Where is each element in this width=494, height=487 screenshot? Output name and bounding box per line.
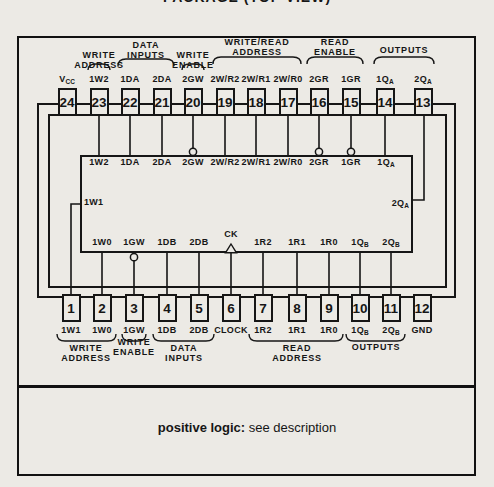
group-write-read-address-top: WRITE/READADDRESS [225,38,290,57]
pin-number: 1 [67,301,75,316]
group-write-enable-bottom: WRITEENABLE [113,338,155,357]
block-label-2wr2: 2W/R2 [210,158,239,169]
pinout-figure: PACKAGE (TOP VIEW) [0,0,494,487]
block-label-1w1: 1W1 [84,198,103,209]
label-subscript: A [427,78,432,85]
label-subscript: A [404,202,409,209]
pin-number: 5 [195,301,203,316]
group-data-inputs-top: DATAINPUTS [127,41,165,60]
brace-top-read-enable [307,57,363,64]
pin-box-21: 21 [153,88,172,116]
label-subscript: CC [65,78,74,85]
pin-label-2db: 2DB [190,326,209,337]
block-label-2gr: 2GR [309,158,328,169]
block-label-2gw: 2GW [182,158,203,169]
block-label-1r2: 1R2 [254,238,271,249]
block-label-1gr: 1GR [341,158,360,169]
group-outputs-top: OUTPUTS [380,46,429,56]
pin-label-1da: 1DA [121,75,140,86]
bubble-1gr [347,148,354,155]
pin-box-17: 17 [279,88,298,116]
bubble-1gw [130,254,137,261]
group-write-enable-top: WRITEENABLE [172,51,214,70]
pin-number: 19 [217,95,232,110]
bubble-2gr [315,148,322,155]
block-label-1r1: 1R1 [288,238,305,249]
pin-label-2gr: 2GR [309,75,328,86]
block-label-1r0: 1R0 [320,238,337,249]
wire [102,253,391,296]
block-label-2wr0: 2W/R0 [273,158,302,169]
pin-number: 13 [415,95,430,110]
pin-number: 15 [343,95,358,110]
label-subscript: B [395,241,400,248]
pin-box-2: 2 [93,294,112,322]
label-subscript: B [364,329,369,336]
wire [99,114,385,156]
pin-label-1gr: 1GR [341,75,360,86]
pin-box-20: 20 [184,88,203,116]
pin-box-10: 10 [351,294,370,322]
pin-number: 12 [414,301,429,316]
pin-label-2gw: 2GW [182,75,203,86]
pin-label-2qb: 2QB [382,326,399,337]
pin-box-23: 23 [90,88,109,116]
pin-number: 2 [98,301,106,316]
pin-label-1db: 1DB [158,326,177,337]
pin-box-22: 22 [121,88,140,116]
block-label-2qa: 2QA [392,199,409,210]
pin-box-11: 11 [382,294,401,322]
group-write-address-top: WRITEADDRESS [74,51,124,70]
pin-number: 8 [293,301,301,316]
pin-box-7: 7 [254,294,273,322]
block-label-1w2: 1W2 [89,158,108,169]
pin-number: 11 [384,301,398,316]
pin-label-1qb: 1QB [351,326,368,337]
pin-label-2wr1: 2W/R1 [241,75,270,86]
block-label-2db: 2DB [190,238,209,249]
pin-number: 14 [377,95,392,110]
block-label-2da: 2DA [153,158,172,169]
block-label-1qa: 1QA [377,158,394,169]
pin-number: 3 [130,301,138,316]
pin-number: 22 [122,95,137,110]
pin-box-6: 6 [222,294,241,322]
pin-number: 24 [59,95,74,110]
pin-number: 20 [185,95,200,110]
pin-number: 9 [325,301,333,316]
pin-box-13: 13 [414,88,433,116]
pin-box-8: 8 [288,294,307,322]
brace-top-outputs [374,57,434,64]
pin-box-24: 24 [58,88,77,116]
pin-box-3: 3 [125,294,144,322]
block-label-1qb: 1QB [351,238,368,249]
block-label-1gw: 1GW [123,238,144,249]
brace-top-data-inputs [118,59,174,66]
pin-label-2wr0: 2W/R0 [273,75,302,86]
bubble-2gw [189,148,196,155]
brace-top-write-read-address [213,57,301,64]
pin-label-gnd: GND [412,326,433,337]
group-read-enable-top: READENABLE [314,38,356,57]
pin-label-2wr2: 2W/R2 [210,75,239,86]
block-label-ck: CK [224,230,238,241]
pin-number: 17 [280,95,295,110]
label-subscript: A [389,78,394,85]
pin-number: 10 [352,301,367,316]
block-label-1w0: 1W0 [92,238,111,249]
pin-number: 6 [227,301,235,316]
pin-box-4: 4 [158,294,177,322]
clock-triangle-icon [226,244,237,253]
group-outputs-bottom: OUTPUTS [352,343,401,353]
pin-box-5: 5 [190,294,209,322]
pin-number: 21 [154,95,169,110]
pin-box-9: 9 [320,294,339,322]
block-label-1da: 1DA [121,158,140,169]
pin-label-2da: 2DA [153,75,172,86]
pin-label-1w1: 1W1 [61,326,80,337]
pin-label-1r1: 1R1 [288,326,305,337]
pin-box-19: 19 [216,88,235,116]
group-write-address-bottom: WRITEADDRESS [61,344,111,363]
group-read-address-bottom: READADDRESS [272,344,322,363]
pin-box-15: 15 [342,88,361,116]
